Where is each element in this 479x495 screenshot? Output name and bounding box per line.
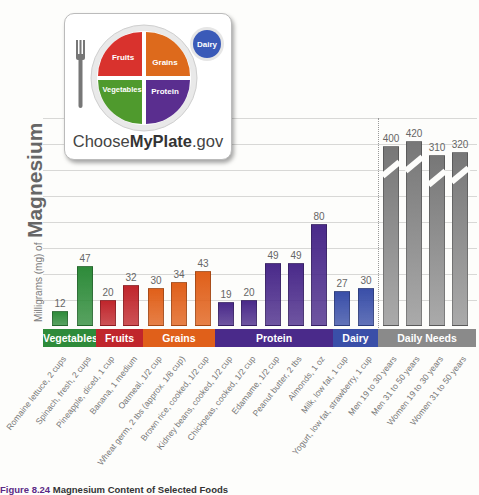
figure-caption: Figure 8.24 Magnesium Content of Selecte… [0, 484, 228, 495]
bar-value-label: 47 [70, 253, 100, 264]
band-protein: Protein [215, 329, 333, 347]
bar [241, 300, 257, 326]
bar [195, 271, 211, 326]
bar [77, 266, 93, 326]
bar [218, 302, 234, 326]
bar-value-label: 12 [45, 298, 75, 309]
bar [171, 282, 187, 326]
svg-text:Protein: Protein [151, 87, 179, 96]
bar-value-label: 80 [304, 211, 334, 222]
figure-number: Figure 8.24 [0, 484, 50, 495]
band-vegetables: Vegetables [43, 329, 96, 347]
daily-needs-divider [378, 118, 379, 328]
band-dairy: Dairy [333, 329, 378, 347]
bar [265, 263, 281, 326]
figure-title: Magnesium Content of Selected Foods [53, 484, 228, 495]
y-axis-unit: Milligrams (mg) of [33, 243, 44, 322]
bar-value-label: 20 [234, 287, 264, 298]
y-axis-nutrient: Magnesium [23, 123, 46, 239]
bar-value-label: 43 [188, 258, 218, 269]
y-axis-title: Milligrams (mg) of Magnesium [23, 92, 47, 322]
band-daily-needs: Daily Needs [378, 329, 476, 347]
svg-text:Dairy: Dairy [197, 40, 218, 49]
svg-text:Grains: Grains [152, 58, 178, 67]
bar [311, 224, 327, 326]
band-fruits: Fruits [96, 329, 143, 347]
bar-value-label: 30 [351, 275, 381, 286]
bar-value-label: 320 [445, 139, 475, 150]
bar [100, 300, 116, 326]
bar [123, 285, 139, 326]
bar-value-label: 34 [164, 269, 194, 280]
svg-text:ChooseMyPlate.gov: ChooseMyPlate.gov [73, 132, 224, 150]
bar-value-label: 49 [281, 250, 311, 261]
svg-text:Vegetables: Vegetables [102, 85, 141, 94]
bar-value-label: 20 [93, 287, 123, 298]
bar [334, 291, 350, 326]
bar [358, 288, 374, 326]
svg-text:Fruits: Fruits [112, 53, 135, 62]
plate-icon: Fruits Grains Vegetables Protein Dairy C… [65, 14, 231, 159]
bar [52, 311, 68, 326]
myplate-logo: Fruits Grains Vegetables Protein Dairy C… [64, 13, 232, 160]
bar [288, 263, 304, 326]
bar-value-label: 420 [399, 128, 429, 139]
bar [148, 288, 164, 326]
band-grains: Grains [143, 329, 215, 347]
